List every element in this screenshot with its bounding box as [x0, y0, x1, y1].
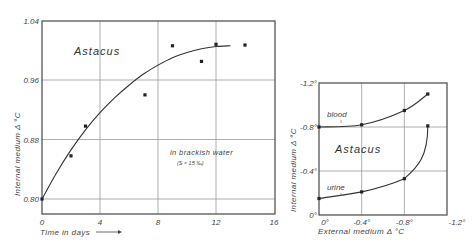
right-chart: 0°-0.4°-0.8°-1.2° 0°-0.4°-0.8°-1.2° bloo… [289, 79, 466, 236]
left-x-tick-label: 4 [98, 218, 103, 227]
left-y-tick-label: 1.04 [23, 17, 39, 26]
data-point [360, 123, 363, 126]
data-point [426, 124, 429, 127]
right-x-tick-label: -0.4° [353, 218, 371, 227]
data-point [317, 197, 320, 200]
right-y-axis-label: Internal medium Δ °C [289, 128, 298, 212]
data-point [360, 190, 363, 193]
left-y-axis-label: Internal medium Δ °C [13, 112, 22, 196]
left-y-tick-label: 0.80 [23, 195, 39, 204]
left-fitted-curve [42, 46, 231, 199]
data-point [243, 43, 246, 46]
data-point [40, 197, 43, 200]
left-x-ticks: 0481216 [40, 218, 279, 227]
salinity-annotation: (S ≈ 15 ‰) [177, 160, 204, 166]
right-y-tick-label: 0° [309, 211, 317, 220]
left-chart-title: Astacus [73, 45, 120, 57]
left-y-tick-label: 0.96 [23, 76, 39, 85]
right-y-ticks: 0°-0.4°-0.8°-1.2° [300, 79, 318, 220]
data-point [200, 60, 203, 63]
data-point [171, 44, 174, 47]
right-x-tick-label: -0.8° [396, 218, 414, 227]
right-x-tick-label: -1.2° [449, 218, 467, 227]
data-point [403, 109, 406, 112]
urine-series-label: urine [327, 183, 345, 192]
right-y-tick-label: -1.2° [300, 79, 318, 88]
data-point [403, 177, 406, 180]
data-point [143, 93, 146, 96]
right-x-axis-label: External medium Δ °C [318, 227, 405, 236]
right-y-tick-label: -0.8° [300, 123, 318, 132]
right-x-tick-label: 0° [321, 218, 329, 227]
data-point [214, 43, 217, 46]
blood-series-label: blood [327, 110, 347, 119]
left-x-tick-label: 8 [156, 218, 161, 227]
data-point [84, 125, 87, 128]
figure: 0.800.880.961.04 0481216 Astacus in brac… [0, 0, 475, 246]
left-x-tick-label: 12 [212, 218, 221, 227]
left-y-tick-label: 0.88 [23, 136, 39, 145]
right-x-ticks: 0°-0.4°-0.8°-1.2° [321, 218, 466, 227]
data-point [426, 92, 429, 95]
left-x-axis-label: Time in days [40, 228, 90, 237]
left-x-tick-label: 0 [40, 218, 45, 227]
left-x-tick-label: 16 [270, 218, 279, 227]
data-point [317, 125, 320, 128]
right-arrow-icon [96, 230, 122, 234]
data-point [69, 154, 72, 157]
right-y-tick-label: -0.4° [300, 167, 318, 176]
right-chart-title: Astacus [334, 143, 381, 155]
left-y-ticks: 0.800.880.961.04 [23, 17, 39, 205]
left-chart: 0.800.880.961.04 0481216 Astacus in brac… [13, 17, 279, 238]
brackish-water-annotation: in brackish water [170, 148, 233, 157]
